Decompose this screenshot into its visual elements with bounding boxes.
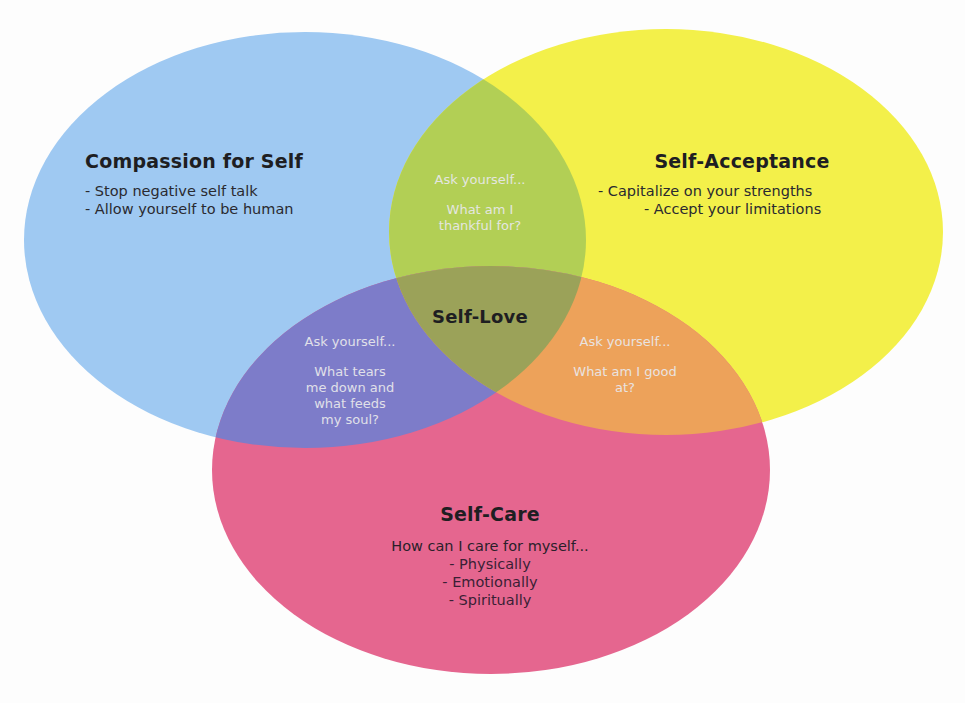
compassion-item: - Allow yourself to be human: [85, 200, 303, 218]
question-line: me down and: [265, 380, 435, 396]
compassion-item: - Stop negative self talk: [85, 182, 303, 200]
good-at-question: Ask yourself... What am I good at?: [540, 334, 710, 396]
acceptance-item: - Capitalize on your strengths: [598, 182, 898, 200]
question-line: what feeds: [265, 396, 435, 412]
care-item: - Spiritually: [340, 591, 640, 609]
acceptance-item: - Accept your limitations: [598, 200, 898, 218]
acceptance-label-group: Self-Acceptance - Capitalize on your str…: [598, 150, 898, 218]
question-line: thankful for?: [395, 218, 565, 234]
soul-question: Ask yourself... What tears me down and w…: [265, 334, 435, 428]
care-label-group: Self-Care How can I care for myself... -…: [340, 503, 640, 609]
prompt-text: Ask yourself...: [540, 334, 710, 350]
care-item: - Emotionally: [340, 573, 640, 591]
question-line: my soul?: [265, 412, 435, 428]
question-line: What am I: [395, 202, 565, 218]
care-title: Self-Care: [340, 503, 640, 525]
self-love-title: Self-Love: [410, 306, 550, 327]
compassion-label-group: Compassion for Self - Stop negative self…: [85, 150, 303, 218]
acceptance-title: Self-Acceptance: [586, 150, 898, 172]
venn-diagram: Compassion for Self - Stop negative self…: [0, 0, 965, 703]
thankful-question: Ask yourself... What am I thankful for?: [395, 172, 565, 234]
question-line: at?: [540, 380, 710, 396]
compassion-title: Compassion for Self: [85, 150, 303, 172]
prompt-text: Ask yourself...: [395, 172, 565, 188]
question-line: What tears: [265, 364, 435, 380]
prompt-text: Ask yourself...: [265, 334, 435, 350]
care-lead: How can I care for myself...: [340, 537, 640, 555]
care-item: - Physically: [340, 555, 640, 573]
question-line: What am I good: [540, 364, 710, 380]
